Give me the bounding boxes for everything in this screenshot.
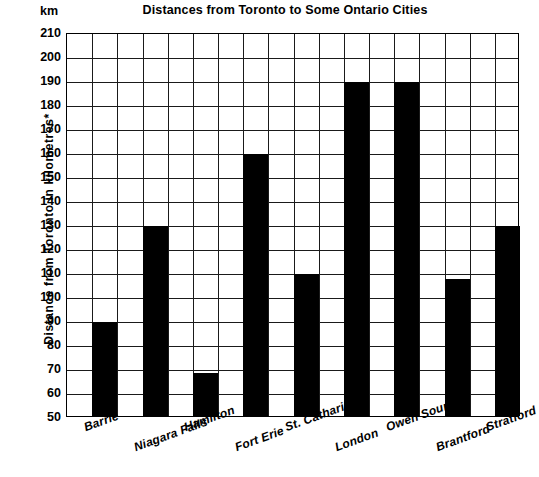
gridline-horizontal	[67, 178, 518, 179]
chart-title: Distances from Toronto to Some Ontario C…	[120, 3, 450, 17]
gridline-vertical	[218, 34, 219, 416]
bar	[92, 322, 117, 416]
y-axis-tick-label: 60	[3, 386, 61, 400]
gridline-vertical	[419, 34, 420, 416]
gridline-vertical	[117, 34, 118, 416]
bar	[243, 154, 268, 416]
y-axis-tick-label: 140	[3, 194, 61, 208]
gridline-horizontal	[67, 58, 518, 59]
y-axis-tick-label: 110	[3, 266, 61, 280]
gridline-horizontal	[67, 226, 518, 227]
x-axis-tick-labels: BarrieNiagara FallsHamiltonFort ErieSt. …	[0, 417, 534, 477]
bar	[445, 279, 470, 416]
bar	[344, 82, 369, 416]
gridline-vertical	[168, 34, 169, 416]
gridline-vertical	[319, 34, 320, 416]
gridline-horizontal	[67, 202, 518, 203]
y-axis-tick-label: 150	[3, 170, 61, 184]
y-axis-tick-label: 170	[3, 122, 61, 136]
y-axis-tick-label: 190	[3, 74, 61, 88]
y-axis-unit-label: km	[40, 4, 58, 18]
y-axis-tick-label: 80	[3, 338, 61, 352]
bar	[143, 226, 168, 416]
gridline-vertical	[369, 34, 370, 416]
y-axis-tick-label: 200	[3, 50, 61, 64]
x-axis-tick-label: Brantford	[434, 422, 492, 454]
y-axis-tick-label: 90	[3, 314, 61, 328]
gridline-horizontal	[67, 106, 518, 107]
bar	[495, 226, 520, 416]
y-axis-tick-label: 120	[3, 242, 61, 256]
bar	[294, 274, 319, 416]
y-axis-tick-label: 100	[3, 290, 61, 304]
y-axis-tick-labels: 2102001901801701601501401301201101009080…	[0, 33, 61, 417]
x-axis-tick-label: Fort Erie	[233, 424, 286, 455]
gridline-horizontal	[67, 274, 518, 275]
gridline-vertical	[470, 34, 471, 416]
y-axis-tick-label: 70	[3, 362, 61, 376]
gridline-horizontal	[67, 130, 518, 131]
gridline-vertical	[193, 34, 194, 416]
gridline-vertical	[268, 34, 269, 416]
gridline-horizontal	[67, 250, 518, 251]
y-axis-tick-label: 180	[3, 98, 61, 112]
bar	[394, 82, 419, 416]
gridline-horizontal	[67, 154, 518, 155]
gridline-horizontal	[67, 82, 518, 83]
y-axis-tick-label: 130	[3, 218, 61, 232]
y-axis-tick-label: 160	[3, 146, 61, 160]
x-axis-tick-label: London	[333, 426, 380, 455]
y-axis-tick-label: 210	[3, 26, 61, 40]
plot-area	[66, 33, 519, 417]
